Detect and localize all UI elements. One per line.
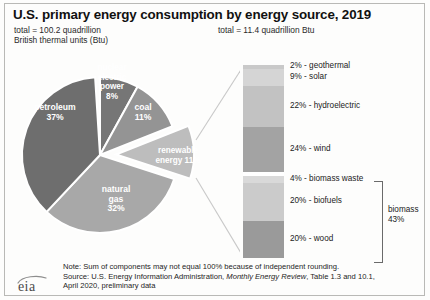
- footnote-source-line2: April 2020, preliminary data: [63, 281, 375, 291]
- bar-label-solar: 9% - solar: [290, 72, 327, 81]
- bar-total-caption: total = 11.4 quadrillion Btu: [218, 25, 314, 35]
- leader-lines: [196, 65, 240, 258]
- bar-label-geothermal: 2% - geothermal: [290, 61, 350, 70]
- renewables-stacked-bar: [243, 65, 284, 258]
- pie-total-line1: total = 100.2 quadrillion: [14, 25, 108, 35]
- pie-chart: petroleum37%naturalgas32%coal11%nucleare…: [0, 48, 240, 263]
- pie-total-caption: total = 100.2 quadrillion British therma…: [14, 25, 108, 45]
- footnote-source: Source: U.S. Energy Information Administ…: [63, 272, 375, 282]
- bar-segment-biomass-waste: [243, 176, 284, 183]
- pie-label-renewable-energy: renewableenergy 11%: [155, 146, 201, 165]
- energy-consumption-figure: U.S. primary energy consumption by energ…: [0, 0, 430, 300]
- bar-segment-biofuels: [243, 183, 284, 220]
- biomass-bracket: [374, 181, 383, 263]
- pie-label-coal: coal11%: [134, 102, 151, 122]
- pie-total-line2: British thermal units (Btu): [14, 35, 108, 45]
- biomass-bracket-label: biomass 43%: [388, 205, 419, 225]
- bar-segment-wood: [243, 221, 284, 258]
- page-title: U.S. primary energy consumption by energ…: [13, 7, 371, 22]
- biomass-label-line1: biomass: [388, 205, 419, 215]
- bar-segment-wind: [243, 127, 284, 172]
- biomass-label-line2: 43%: [388, 215, 419, 225]
- bar-label-biomass-waste: 4% - biomass waste: [290, 174, 363, 183]
- bar-segment-solar: [243, 69, 284, 86]
- bar-label-biofuels: 20% - biofuels: [290, 196, 342, 205]
- bar-segment-hydroelectric: [243, 86, 284, 127]
- footnotes: Note: Sum of components may not equal 10…: [63, 262, 375, 291]
- eia-logo-text: eia: [18, 279, 36, 295]
- footnote-note: Note: Sum of components may not equal 10…: [63, 262, 375, 272]
- bar-label-wind: 24% - wind: [290, 144, 331, 153]
- source-publication: Monthly Energy Review: [226, 272, 306, 281]
- source-pre: Source: U.S. Energy Information Administ…: [63, 272, 226, 281]
- bar-label-wood: 20% - wood: [290, 234, 333, 243]
- bar-label-hydroelectric: 22% - hydroelectric: [290, 101, 360, 110]
- source-post: , Table 1.3 and 10.1,: [306, 272, 375, 281]
